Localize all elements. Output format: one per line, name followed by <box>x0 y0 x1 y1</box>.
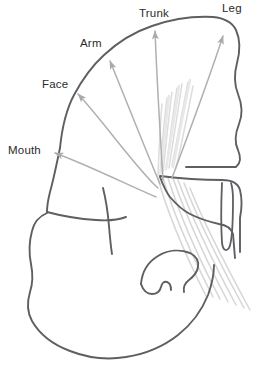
sylvian-fissure <box>47 212 126 220</box>
projection-arrows <box>55 31 223 197</box>
brain-diagram-canvas <box>0 0 264 365</box>
uncus-hook-inner <box>141 282 171 294</box>
label-arm: Arm <box>80 38 102 50</box>
midline-ventricle <box>221 183 233 250</box>
arrow-arm-line <box>110 61 160 184</box>
brain-diagram-figure: Trunk Leg Arm Face Mouth <box>0 0 264 365</box>
label-mouth: Mouth <box>8 145 41 157</box>
arrow-face-line <box>78 94 158 188</box>
frontal-base-outline <box>47 148 60 212</box>
arrow-mouth-line <box>55 153 156 197</box>
label-face: Face <box>42 79 68 91</box>
label-leg: Leg <box>222 3 242 15</box>
arrow-leg-line <box>172 36 223 178</box>
temporal-lobe-outline <box>28 213 214 358</box>
label-trunk: Trunk <box>139 8 169 20</box>
